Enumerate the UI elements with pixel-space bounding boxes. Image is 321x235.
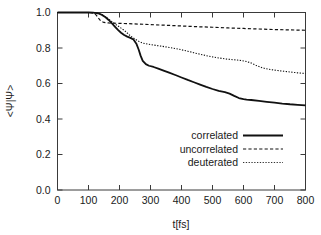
x-axis-tick-labels: 0100200300400500600700800: [55, 194, 315, 206]
series-line-deuterated: [58, 13, 306, 74]
y-tick-label: 0.4: [36, 113, 51, 125]
legend-label-correlated: correlated: [191, 129, 238, 141]
x-tick-label: 100: [80, 194, 98, 206]
x-axis-label: t[fs]: [173, 218, 190, 230]
x-tick-label: 0: [55, 194, 61, 206]
x-tick-label: 600: [235, 194, 253, 206]
y-tick-label: 0.6: [36, 77, 51, 89]
chart-legend: correlateduncorrelateddeuterated: [180, 129, 283, 168]
x-tick-label: 200: [111, 194, 129, 206]
x-tick-label: 700: [266, 194, 284, 206]
x-tick-label: 400: [173, 194, 191, 206]
x-tick-label: 500: [204, 194, 222, 206]
plot-canvas: 0.00.20.40.60.81.0 010020030040050060070…: [0, 0, 321, 235]
y-axis-label: <Ψ|Ψ>: [4, 85, 16, 118]
y-tick-label: 0.0: [36, 184, 51, 196]
y-tick-label: 0.8: [36, 42, 51, 54]
y-tick-label: 1.0: [36, 6, 51, 18]
y-tick-label: 0.2: [36, 148, 51, 160]
series-line-correlated: [58, 13, 306, 106]
chart-figure: 0.00.20.40.60.81.0 010020030040050060070…: [0, 0, 321, 235]
legend-label-uncorrelated: uncorrelated: [180, 143, 239, 155]
x-tick-label: 300: [142, 194, 160, 206]
data-series-group: [58, 13, 306, 106]
x-tick-label: 800: [297, 194, 315, 206]
legend-label-deuterated: deuterated: [188, 156, 238, 168]
y-axis-tick-labels: 0.00.20.40.60.81.0: [36, 6, 51, 196]
